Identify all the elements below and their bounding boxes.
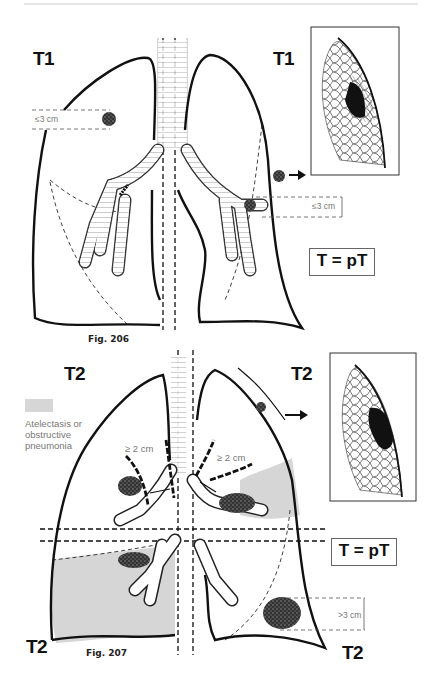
measurement-left-t1: ≤3 cm <box>312 201 335 211</box>
stage-label-t2-top-left: T2 <box>64 363 85 385</box>
tumor-left-lower-large <box>263 597 301 629</box>
figure-206 <box>32 27 399 330</box>
tumor-left-pleural <box>273 170 285 182</box>
stage-label-t2-top-right: T2 <box>291 363 312 385</box>
legend-label: Atelectasis or obstructive pneumonia <box>25 418 85 451</box>
arrow-to-inset-t2 <box>285 410 308 420</box>
tumor-left-central <box>244 199 256 211</box>
equation-t1: T = pT <box>309 248 375 276</box>
tumor-right-peripheral <box>102 112 116 126</box>
stage-label-t1-left: T1 <box>273 48 294 70</box>
left-lung-outline <box>178 55 302 328</box>
tumor-pleural-t2 <box>256 402 266 412</box>
stage-label-t2-bottom-right: T2 <box>342 642 363 664</box>
tumor-left-central-t2 <box>219 493 255 513</box>
figure-caption-207: Fig. 207 <box>86 648 127 658</box>
equation-t2: T = pT <box>331 538 397 566</box>
inset-t1 <box>311 27 399 175</box>
trachea <box>158 38 187 330</box>
stage-label-t2-bottom-left: T2 <box>26 636 47 658</box>
tumor-right-central <box>118 476 142 496</box>
cut-lines <box>40 529 325 541</box>
legend-swatch <box>25 399 53 412</box>
figure-caption-206: Fig. 206 <box>88 334 129 344</box>
measurement-right-carina: ≥ 2 cm <box>125 443 153 454</box>
measurement-right-t1: ≤3 cm <box>35 114 58 124</box>
measurement-left-carina: ≥ 2 cm <box>217 452 245 463</box>
arrow-to-inset-t1 <box>289 170 306 180</box>
measurement-left-lower: >3 cm <box>338 610 361 620</box>
inset-t2 <box>330 353 416 501</box>
stage-label-t1-right: T1 <box>33 48 54 70</box>
tumor-lower-right-segment <box>118 552 150 568</box>
tnm-lung-diagram <box>0 0 438 683</box>
